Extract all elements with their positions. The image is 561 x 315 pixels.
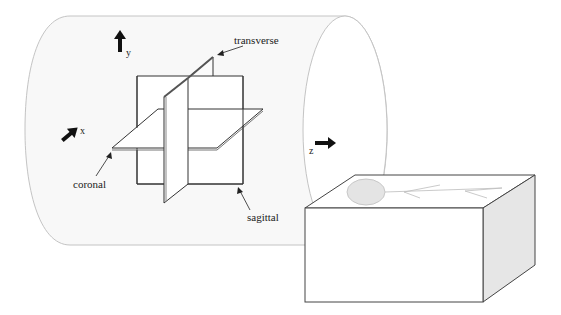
label-sagittal: sagittal xyxy=(247,211,279,223)
patient-head xyxy=(347,179,385,205)
x-axis-label: x xyxy=(80,125,85,136)
anatomical-planes-diagram: y x z transverse coronal sagittal xyxy=(0,0,561,315)
z-axis-label: z xyxy=(309,145,314,156)
patient-box xyxy=(305,175,535,302)
y-axis-label: y xyxy=(126,47,131,58)
label-coronal: coronal xyxy=(73,178,106,190)
sagittal-plane xyxy=(164,78,188,203)
box-front-face xyxy=(305,208,483,302)
label-transverse: transverse xyxy=(234,34,279,46)
